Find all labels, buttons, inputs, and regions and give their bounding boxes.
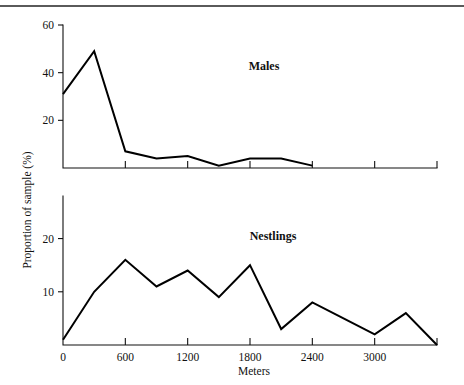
nestlings-axis-lines	[63, 196, 437, 345]
y-tick-label: 40	[43, 67, 55, 79]
x-axis-label: Meters	[238, 365, 270, 377]
y-tick-label: 60	[43, 19, 55, 31]
top-horizontal-rule	[0, 5, 464, 7]
y-tick-label: 20	[43, 114, 55, 126]
males-y-tick-marks	[58, 25, 63, 120]
x-tick-label: 3000	[363, 351, 386, 363]
y-axis-label: Proportion of sample (%)	[21, 151, 34, 268]
x-tick-label: 1800	[239, 351, 262, 363]
x-tick-label: 0	[60, 351, 66, 363]
figure-container: Proportion of sample (%) 204060 Males 10…	[0, 0, 464, 385]
y-tick-label: 10	[43, 286, 55, 298]
panel-title-nestlings: Nestlings	[250, 229, 297, 243]
nestlings-y-tick-labels: 1020	[43, 233, 55, 298]
panel-nestlings: 1020 06001200180024003000 Nestlings Mete…	[43, 196, 438, 377]
males-axis-lines	[63, 25, 437, 168]
nestlings-data-series	[63, 260, 437, 345]
panel-title-males: Males	[249, 59, 280, 73]
nestlings-x-tick-marks	[125, 338, 437, 345]
nestlings-y-tick-marks	[58, 239, 63, 292]
y-tick-label: 20	[43, 233, 55, 245]
nestlings-x-tick-labels: 06001200180024003000	[60, 351, 386, 363]
dual-line-chart: Proportion of sample (%) 204060 Males 10…	[0, 0, 464, 385]
x-tick-label: 1200	[176, 351, 199, 363]
panel-males: 204060 Males	[43, 19, 438, 168]
x-tick-label: 2400	[301, 351, 324, 363]
males-x-tick-marks	[125, 161, 437, 168]
males-y-tick-labels: 204060	[43, 19, 55, 126]
x-tick-label: 600	[117, 351, 135, 363]
